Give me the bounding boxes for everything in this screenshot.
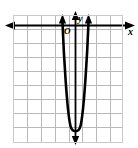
x-axis-label: x <box>128 27 133 37</box>
y-axis-label: y <box>78 14 82 24</box>
origin-label: O <box>64 27 71 36</box>
coordinate-plane <box>0 0 138 148</box>
graph-figure: y x O <box>0 0 138 148</box>
